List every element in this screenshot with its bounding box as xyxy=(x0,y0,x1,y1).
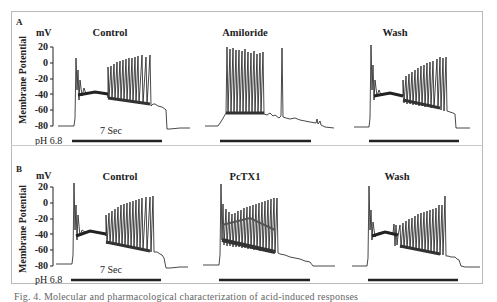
trace-control xyxy=(56,183,188,268)
figure-caption: Fig. 4. Molecular and pharmacological ch… xyxy=(14,291,358,302)
trace-wash xyxy=(352,186,480,267)
y-axis xyxy=(50,187,53,266)
trace-pctx1 xyxy=(203,184,335,266)
